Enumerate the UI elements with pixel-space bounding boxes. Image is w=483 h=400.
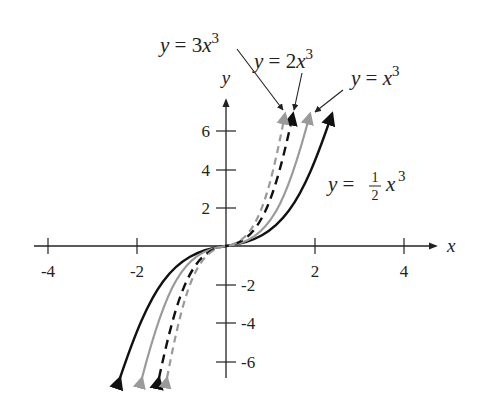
y-axis-label: y [220, 67, 231, 88]
curve-labels: y = 3x3 y = 2x3 y = x3 y = 1 2 x 3 [158, 30, 406, 203]
label-2x-cubed: y = 2x3 [252, 46, 313, 73]
pointer-x-cubed [315, 90, 343, 112]
pointer-2x-cubed [294, 73, 302, 110]
x-tick-label-neg4: -4 [41, 262, 56, 281]
y-tick-label-neg2: -2 [241, 276, 255, 295]
y-tick-label-4: 4 [202, 161, 211, 180]
svg-text:y =: y = [326, 172, 354, 196]
y-tick-label-neg4: -4 [241, 314, 256, 333]
y-tick-label-6: 6 [202, 122, 211, 141]
svg-text:2: 2 [372, 188, 379, 203]
svg-text:1: 1 [372, 170, 379, 185]
svg-text:x: x [385, 172, 396, 196]
cubic-functions-chart: -4 -2 2 4 x 6 4 2 -2 -4 -6 y [0, 0, 483, 400]
y-tick-label-neg6: -6 [241, 353, 255, 372]
y-tick-label-2: 2 [202, 199, 211, 218]
y-axis: 6 4 2 -2 -4 -6 y [202, 67, 256, 378]
svg-text:3: 3 [398, 168, 406, 184]
x-tick-label-neg2: -2 [130, 262, 144, 281]
label-3x-cubed: y = 3x3 [158, 30, 219, 57]
x-axis-label: x [446, 235, 456, 256]
label-x-cubed: y = x3 [349, 63, 400, 90]
x-tick-label-2: 2 [311, 262, 320, 281]
label-half-x-cubed: y = 1 2 x 3 [326, 168, 406, 203]
x-tick-label-4: 4 [400, 262, 409, 281]
